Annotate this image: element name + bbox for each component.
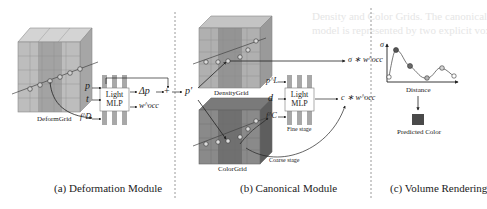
- fine-stage-label: Fine stage: [287, 126, 312, 132]
- density-grid-label: DensityGrid: [214, 89, 249, 97]
- input-fC-label: f^C: [266, 111, 277, 120]
- predicted-color-swatch: [412, 114, 424, 125]
- color-grid-label: ColorGrid: [218, 165, 247, 173]
- deform-grid-label: DeformGrid: [37, 115, 72, 123]
- distance-axis-label: Distance: [406, 86, 431, 94]
- output-w-occ-label: w^occ: [139, 101, 159, 110]
- color-output-label: c ∗ w^occ: [341, 93, 375, 102]
- canonical-mlp-label: Light MLP: [285, 90, 314, 108]
- input-fD-label: f^D: [80, 112, 91, 121]
- input-d-label: d: [268, 92, 273, 103]
- figure-canvas: [0, 0, 487, 209]
- caption-deformation: (a) Deformation Module: [54, 182, 162, 194]
- deform-mlp-label: Light MLP: [100, 90, 129, 108]
- input-t-label: t: [86, 93, 89, 104]
- density-grid-cube: [193, 16, 272, 88]
- input-p-label: p: [85, 80, 90, 91]
- output-delta-p-label: Δp: [139, 85, 150, 96]
- coarse-stage-label: Coarse stage: [269, 157, 300, 163]
- deform-mlp-line2: MLP: [106, 99, 122, 108]
- caption-rendering: (c) Volume Rendering: [390, 182, 487, 194]
- p-prime-label: p′: [185, 85, 192, 96]
- predicted-color-label: Predicted Color: [397, 128, 441, 136]
- density-plot: [387, 44, 458, 82]
- input-pL-label: p^L: [266, 76, 278, 85]
- canonical-mlp-line2: MLP: [291, 99, 307, 108]
- sum-symbol: +: [164, 85, 170, 96]
- sigma-axis-label: σ: [380, 40, 384, 49]
- deform-mlp-line1: Light: [106, 90, 123, 99]
- caption-canonical: (b) Canonical Module: [240, 182, 337, 194]
- canonical-mlp-line1: Light: [291, 90, 308, 99]
- color-grid-cube: [193, 98, 272, 164]
- density-output-label: σ ∗ w^occ: [348, 55, 383, 64]
